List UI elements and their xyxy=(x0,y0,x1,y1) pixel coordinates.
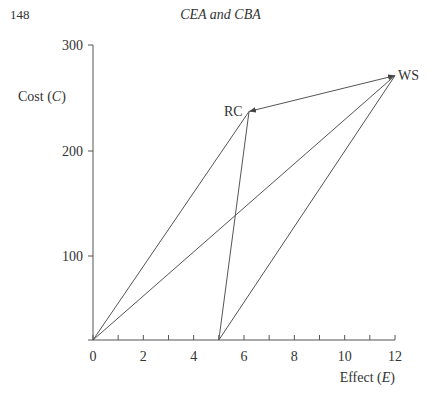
y-tick-label-100: 100 xyxy=(62,249,83,264)
x-tick-label: 10 xyxy=(338,349,352,364)
x-tick-label: 8 xyxy=(291,349,298,364)
point-label-rc: RC xyxy=(224,104,243,119)
cost-effect-chart: 300 200 100 Cost (C) 024681012 Effect (E… xyxy=(0,0,441,400)
x-tick-label: 12 xyxy=(388,349,402,364)
chart-segments xyxy=(93,76,395,340)
x-tick-labels: 024681012 xyxy=(90,349,403,364)
point-label-ws: WS xyxy=(398,68,419,83)
y-axis xyxy=(88,45,93,340)
y-tick-label-200: 200 xyxy=(62,144,83,159)
x-tick-label: 6 xyxy=(241,349,248,364)
y-axis-label: Cost (C) xyxy=(18,89,66,105)
x-tick-label: 4 xyxy=(190,349,197,364)
x-tick-label: 0 xyxy=(90,349,97,364)
x-tick-label: 2 xyxy=(140,349,147,364)
double-arrow-line xyxy=(249,76,395,112)
x-axis-ticks xyxy=(93,335,395,340)
y-tick-label-300: 300 xyxy=(62,38,83,53)
segment-line xyxy=(93,111,249,340)
segment-line xyxy=(219,76,395,340)
segment-line xyxy=(93,76,395,340)
x-axis-label: Effect (E) xyxy=(340,370,396,386)
